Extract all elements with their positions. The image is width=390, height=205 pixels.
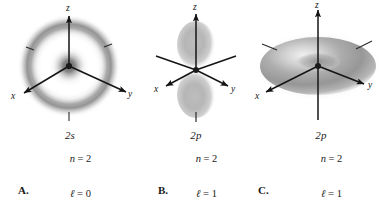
qn-relation: = (74, 188, 85, 199)
qn-value: 0 (86, 188, 91, 199)
axis-label-x: x (10, 91, 16, 101)
orbital-name: 2s (0, 130, 140, 142)
orbital-name: 2p (252, 130, 390, 142)
panel-letter-a: A. (18, 184, 29, 196)
quantum-number-n: n = 2 (0, 142, 140, 177)
qn-relation: = (201, 153, 212, 164)
quantum-number-l: ℓ = 1 (252, 176, 390, 205)
nucleus-dot (315, 63, 321, 69)
panel-b-diagram: z x y (140, 0, 252, 132)
panel-c-diagram: z x y (252, 0, 390, 132)
axis-label-y: y (367, 80, 373, 90)
panel-a-2s-orbital: z x y 2s n = 2 ℓ = 0 m = 0 A. (0, 0, 140, 205)
quantum-number-l: ℓ = 1 (140, 176, 252, 205)
qn-relation: = (75, 153, 86, 164)
panel-a-diagram: z x y (0, 0, 140, 132)
panel-c-caption: 2p n = 2 ℓ = 1 m = ±1 (252, 130, 390, 205)
orbital-name: 2p (140, 130, 252, 142)
panel-c-2p-orbital: z x y 2p n = 2 ℓ = 1 m = ±1 C. (252, 0, 390, 205)
panel-letter-b: B. (158, 184, 168, 196)
axis-label-x: x (153, 84, 159, 94)
quantum-number-n: n = 2 (140, 142, 252, 177)
nucleus-dot (193, 67, 199, 73)
orbital-figure: z x y 2s n = 2 ℓ = 0 m = 0 A. (0, 0, 390, 205)
quantum-number-n: n = 2 (252, 142, 390, 177)
nucleus-dot (66, 63, 72, 69)
qn-value: 2 (337, 153, 342, 164)
qn-value: 2 (212, 153, 217, 164)
axis-label-y: y (230, 84, 236, 94)
axis-label-z: z (192, 2, 197, 12)
axis-label-y: y (127, 89, 133, 99)
panel-b-caption: 2p n = 2 ℓ = 1 m = 0 (140, 130, 252, 205)
qn-value: 1 (212, 188, 217, 199)
qn-value: 2 (86, 153, 91, 164)
axis-label-z: z (65, 3, 70, 13)
axis-label-z: z (314, 0, 319, 10)
qn-relation: = (325, 188, 336, 199)
qn-relation: = (326, 153, 337, 164)
panel-letter-c: C. (258, 184, 269, 196)
panel-b-2p-orbital: z x y 2p n = 2 ℓ = 1 m = 0 B. (140, 0, 252, 205)
qn-value: 1 (337, 188, 342, 199)
axis-label-x: x (254, 91, 260, 101)
qn-relation: = (200, 188, 211, 199)
